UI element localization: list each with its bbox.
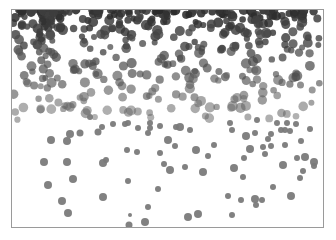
dot	[38, 83, 44, 89]
dot	[282, 127, 288, 133]
dot	[205, 153, 211, 159]
dot	[300, 168, 306, 174]
dot	[265, 136, 271, 142]
dot	[293, 113, 300, 120]
dot	[72, 6, 81, 15]
dot	[115, 78, 124, 87]
dot	[207, 24, 215, 32]
dot-field-image	[0, 0, 336, 240]
dot	[79, 15, 87, 23]
dot	[29, 68, 35, 74]
dot	[264, 19, 273, 28]
dot	[44, 181, 52, 189]
dot	[155, 58, 163, 66]
dot	[259, 197, 265, 203]
dot	[268, 131, 274, 137]
dot	[227, 22, 235, 30]
dot	[273, 71, 279, 77]
dot	[36, 105, 45, 114]
dot	[107, 44, 113, 50]
dot	[306, 49, 314, 57]
dot	[46, 104, 56, 114]
dot	[309, 7, 317, 15]
dot	[255, 38, 263, 46]
dot	[69, 175, 77, 183]
dot	[134, 149, 140, 155]
dot	[63, 137, 71, 145]
dot	[103, 157, 109, 163]
dot	[63, 158, 71, 166]
dot	[172, 72, 180, 80]
dot	[194, 210, 202, 218]
dot	[173, 124, 179, 130]
dot	[163, 61, 171, 69]
dot	[261, 28, 271, 38]
dot	[296, 23, 304, 31]
dot	[196, 96, 206, 106]
dot	[170, 34, 178, 42]
dot	[128, 69, 137, 78]
dot	[126, 10, 133, 17]
dot	[66, 10, 72, 16]
dot	[238, 197, 244, 203]
dot	[91, 34, 97, 40]
dot	[19, 103, 29, 113]
dot	[116, 21, 123, 28]
dot	[188, 74, 197, 83]
dot	[35, 96, 41, 102]
dot	[308, 100, 314, 106]
dot	[215, 68, 222, 75]
dot	[127, 58, 137, 68]
dot	[305, 61, 315, 71]
dot	[203, 64, 212, 73]
dot	[289, 39, 298, 48]
dot	[172, 143, 178, 149]
dot	[297, 175, 303, 181]
dot	[156, 76, 164, 84]
dot	[298, 138, 304, 144]
dot	[44, 61, 52, 69]
dot	[64, 209, 72, 217]
dot	[199, 45, 205, 51]
dot	[104, 86, 113, 95]
dot	[80, 77, 90, 87]
dot	[60, 106, 66, 112]
dot	[211, 142, 217, 148]
dot	[124, 147, 130, 153]
dot	[54, 98, 62, 106]
dot	[129, 35, 135, 41]
dot	[179, 93, 187, 101]
dot	[210, 74, 218, 82]
dot	[279, 79, 286, 86]
dot	[282, 142, 288, 148]
dot	[316, 80, 323, 87]
dot	[87, 46, 94, 53]
dot	[122, 37, 128, 43]
dot	[229, 212, 235, 218]
dot	[164, 13, 171, 20]
dot	[141, 218, 149, 226]
dot	[87, 114, 93, 120]
dot	[184, 213, 192, 221]
dot	[187, 127, 193, 133]
dot	[121, 28, 130, 37]
dot	[255, 28, 262, 35]
dot	[247, 49, 256, 58]
dot	[77, 130, 84, 137]
dot	[311, 163, 317, 169]
dot	[223, 72, 230, 79]
dot	[155, 186, 161, 192]
dot	[268, 143, 274, 149]
dot	[273, 92, 281, 100]
dot	[100, 49, 107, 56]
dot	[225, 193, 231, 199]
dot	[157, 150, 163, 156]
dot	[45, 94, 54, 103]
dot	[45, 69, 54, 78]
dot	[307, 126, 313, 132]
dot	[135, 15, 143, 23]
dot	[202, 113, 209, 120]
dot	[315, 42, 321, 48]
dot	[180, 42, 190, 52]
dot	[192, 146, 200, 154]
